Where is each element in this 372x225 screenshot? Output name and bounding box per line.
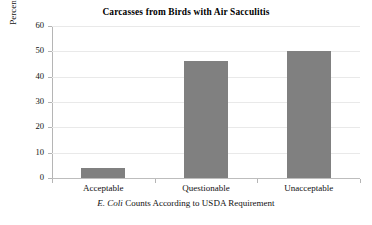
- gridline: [52, 26, 360, 27]
- bar: [184, 61, 228, 178]
- bar: [81, 168, 125, 178]
- y-axis-tick-label: 60: [22, 21, 44, 30]
- y-axis-tick-mark: [48, 127, 52, 128]
- gridline: [52, 178, 360, 179]
- y-axis-title: Percentage of Carcasses in Range: [6, 0, 20, 40]
- x-axis-title-rest: Counts According to USDA Requirement: [123, 198, 275, 208]
- y-axis-tick-mark: [48, 77, 52, 78]
- y-axis-tick-label: 30: [22, 97, 44, 106]
- y-axis-tick-mark: [48, 26, 52, 27]
- y-axis-tick-mark: [48, 153, 52, 154]
- y-axis-tick-label: 50: [22, 46, 44, 55]
- y-axis-tick-mark: [48, 102, 52, 103]
- x-axis-tick-mark: [155, 179, 156, 183]
- x-axis-tick-mark: [257, 179, 258, 183]
- x-axis-category-label: Acceptable: [52, 184, 155, 194]
- bar-chart-figure: Carcasses from Birds with Air Sacculitis…: [0, 0, 372, 225]
- x-axis-tick-mark: [52, 179, 53, 183]
- x-axis-category-label: Unacceptable: [257, 184, 360, 194]
- x-axis-tick-mark: [360, 179, 361, 183]
- y-axis-title-text: Percentage of Carcasses in Range: [6, 0, 20, 40]
- x-axis-category-label: Questionable: [155, 184, 258, 194]
- y-axis-tick-mark: [48, 51, 52, 52]
- y-axis-tick-label: 0: [22, 173, 44, 182]
- chart-title: Carcasses from Birds with Air Sacculitis: [0, 7, 372, 17]
- y-axis-tick-label: 40: [22, 72, 44, 81]
- y-axis-tick-label: 10: [22, 148, 44, 157]
- bar: [287, 51, 331, 178]
- plot-area: [52, 26, 360, 178]
- x-axis-title: E. Coli Counts According to USDA Require…: [0, 198, 372, 208]
- y-axis-tick-label: 20: [22, 122, 44, 131]
- x-axis-title-italic: E. Coli: [97, 198, 123, 208]
